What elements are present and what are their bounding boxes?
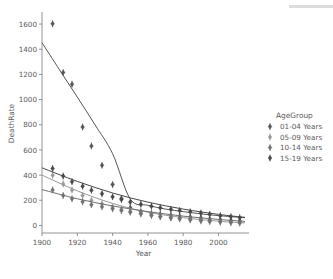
data-point-marker bbox=[208, 211, 212, 218]
data-point-marker bbox=[61, 181, 65, 188]
data-point-marker bbox=[268, 123, 272, 130]
data-series-group bbox=[42, 20, 245, 226]
data-point-marker bbox=[61, 192, 65, 199]
legend-item-label: 05-09 Years bbox=[280, 133, 322, 142]
x-tick-label: 1940 bbox=[103, 238, 122, 247]
data-point-marker bbox=[268, 144, 272, 151]
data-point-marker bbox=[150, 203, 154, 210]
data-point-marker bbox=[128, 209, 132, 216]
data-point-marker bbox=[199, 210, 203, 217]
legend-item-label: 15-19 Years bbox=[280, 154, 322, 163]
y-tick-label: 200 bbox=[23, 196, 37, 205]
x-tick-label: 1960 bbox=[139, 238, 158, 247]
x-tick-label: 1900 bbox=[33, 238, 52, 247]
legend: AgeGroup 01-04 Years05-09 Years10-14 Yea… bbox=[268, 111, 322, 163]
legend-item-10-14-years[interactable]: 10-14 Years bbox=[268, 143, 322, 152]
y-tick-label: 0 bbox=[32, 221, 37, 230]
y-tick-label: 400 bbox=[23, 171, 37, 180]
data-point-marker bbox=[100, 190, 104, 197]
data-point-marker bbox=[139, 201, 143, 208]
y-tick-label: 1000 bbox=[19, 95, 38, 104]
y-tick-label: 800 bbox=[23, 120, 37, 129]
data-point-marker bbox=[90, 187, 94, 194]
data-point-marker bbox=[51, 20, 55, 27]
legend-item-label: 10-14 Years bbox=[280, 143, 322, 152]
data-point-marker bbox=[70, 195, 74, 202]
data-point-marker bbox=[268, 134, 272, 141]
data-point-marker bbox=[229, 213, 233, 220]
data-point-marker bbox=[268, 155, 272, 162]
legend-title: AgeGroup bbox=[276, 111, 313, 120]
series-fit-line bbox=[42, 190, 245, 222]
legend-item-15-19-years[interactable]: 15-19 Years bbox=[268, 154, 322, 163]
data-point-marker bbox=[111, 181, 115, 188]
x-tick-label: 1980 bbox=[174, 238, 193, 247]
series-01-04-years bbox=[42, 20, 245, 224]
data-point-marker bbox=[218, 212, 222, 219]
x-tick-label: 2000 bbox=[209, 238, 228, 247]
x-tick-label: 1920 bbox=[68, 238, 87, 247]
legend-item-01-04-years[interactable]: 01-04 Years bbox=[268, 122, 322, 131]
data-point-marker bbox=[120, 207, 124, 214]
x-tick-group: 190019201940196019802000 bbox=[33, 233, 228, 247]
legend-item-05-09-years[interactable]: 05-09 Years bbox=[268, 133, 322, 142]
y-axis-title: DeathRate bbox=[7, 103, 16, 143]
chart-figure: 02004006008001000120014001600 1900192019… bbox=[0, 0, 333, 279]
data-point-marker bbox=[81, 124, 85, 131]
data-point-marker bbox=[90, 143, 94, 150]
data-point-marker bbox=[188, 208, 192, 215]
data-point-marker bbox=[128, 199, 132, 206]
y-tick-label: 600 bbox=[23, 146, 37, 155]
y-tick-group: 02004006008001000120014001600 bbox=[19, 20, 42, 230]
data-point-marker bbox=[100, 162, 104, 169]
y-tick-label: 1600 bbox=[19, 20, 38, 29]
y-tick-label: 1400 bbox=[19, 45, 38, 54]
data-point-marker bbox=[120, 196, 124, 203]
data-point-marker bbox=[111, 193, 115, 200]
y-tick-label: 1200 bbox=[19, 70, 38, 79]
x-axis-title: Year bbox=[135, 249, 153, 258]
scatter-plot-canvas: 02004006008001000120014001600 1900192019… bbox=[0, 0, 333, 279]
data-point-marker bbox=[61, 173, 65, 180]
data-point-marker bbox=[61, 69, 65, 76]
legend-item-label: 01-04 Years bbox=[280, 122, 322, 131]
